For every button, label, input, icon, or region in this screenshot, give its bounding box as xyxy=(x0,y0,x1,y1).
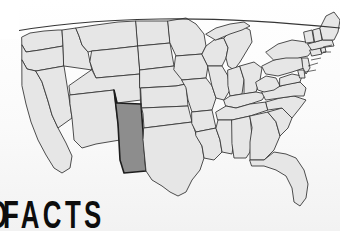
state-VT[interactable] xyxy=(304,30,314,43)
white-corner-mask xyxy=(0,0,19,39)
state-FL[interactable] xyxy=(250,152,308,206)
state-MN[interactable] xyxy=(168,18,206,56)
state-TX[interactable] xyxy=(143,122,204,196)
state-AZ[interactable] xyxy=(70,90,120,148)
states-group xyxy=(22,12,340,206)
state-AL[interactable] xyxy=(232,116,252,158)
state-ND[interactable] xyxy=(136,21,170,46)
state-WY[interactable] xyxy=(90,46,140,78)
map-infographic-canvas: D FACTS United States New Mexico xyxy=(0,0,340,231)
us-states-map[interactable] xyxy=(0,0,340,231)
state-PA[interactable] xyxy=(262,56,304,76)
state-SD[interactable] xyxy=(138,43,174,70)
state-IA[interactable] xyxy=(174,54,208,80)
state-WI[interactable] xyxy=(202,38,228,66)
state-KS[interactable] xyxy=(141,84,188,108)
